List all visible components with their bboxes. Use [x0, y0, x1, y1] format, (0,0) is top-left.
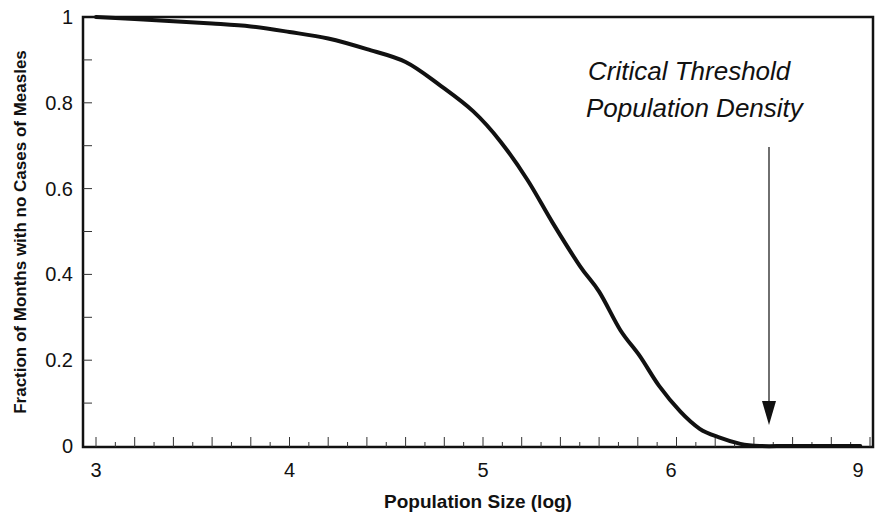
- y-axis-ticks: 00.20.40.60.81: [45, 6, 92, 457]
- x-tick-label: 3: [90, 459, 101, 481]
- arrow-head-icon: [762, 401, 776, 425]
- y-tick-label: 0.6: [45, 178, 73, 200]
- x-axis-title: Population Size (log): [384, 491, 572, 512]
- y-tick-label: 1: [62, 6, 73, 28]
- annotation-line-2: Population Density: [586, 93, 805, 123]
- y-axis-title: Fraction of Months with no Cases of Meas…: [11, 50, 30, 414]
- x-tick-label: 4: [284, 459, 295, 481]
- chart: 00.20.40.60.81 34569 Critical Threshold …: [0, 0, 878, 528]
- x-tick-label: 9: [852, 459, 863, 481]
- x-tick-label: 6: [665, 459, 676, 481]
- y-tick-label: 0: [62, 435, 73, 457]
- y-tick-label: 0.8: [45, 92, 73, 114]
- annotation-line-1: Critical Threshold: [588, 56, 792, 86]
- threshold-arrow: [762, 147, 776, 425]
- x-tick-label: 5: [477, 459, 488, 481]
- y-tick-label: 0.4: [45, 263, 73, 285]
- y-tick-label: 0.2: [45, 349, 73, 371]
